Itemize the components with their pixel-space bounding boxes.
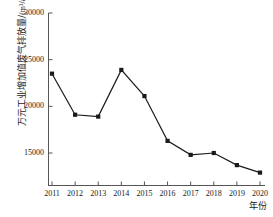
data-point-marker [165, 139, 169, 143]
data-point-marker [212, 151, 216, 155]
data-point-marker [96, 115, 100, 119]
x-tick-label: 2017 [178, 189, 204, 198]
data-point-marker [142, 94, 146, 98]
x-tick-label: 2018 [201, 189, 227, 198]
x-tick-label: 2011 [39, 189, 65, 198]
data-point-marker [189, 153, 193, 157]
x-axis-ticks [52, 182, 260, 186]
data-point-marker [258, 171, 262, 175]
x-tick-label: 2014 [108, 189, 134, 198]
x-tick-label: 2012 [62, 189, 88, 198]
x-tick-label: 2015 [131, 189, 157, 198]
data-point-markers [50, 68, 262, 175]
data-point-marker [235, 163, 239, 167]
data-point-marker [50, 72, 54, 76]
y-tick-label: 30000 [10, 8, 44, 17]
x-tick-label: 2013 [85, 189, 111, 198]
chart-container: 万元工业增加值废气排放量/(m³/a) 15000200002500030000… [0, 0, 273, 217]
y-tick-label: 15000 [10, 148, 44, 157]
x-tick-label: 2016 [155, 189, 181, 198]
data-point-marker [119, 68, 123, 72]
y-axis-title: 万元工业增加值废气排放量/(m³/a) [15, 0, 28, 136]
y-axis-ticks [49, 13, 53, 153]
y-tick-label: 20000 [10, 101, 44, 110]
x-tick-label: 2019 [224, 189, 250, 198]
x-tick-label: 2020 [247, 189, 273, 198]
x-axis-title: 年份 [249, 199, 267, 212]
y-tick-label: 25000 [10, 55, 44, 64]
data-point-marker [73, 113, 77, 117]
data-series-line [52, 70, 260, 173]
